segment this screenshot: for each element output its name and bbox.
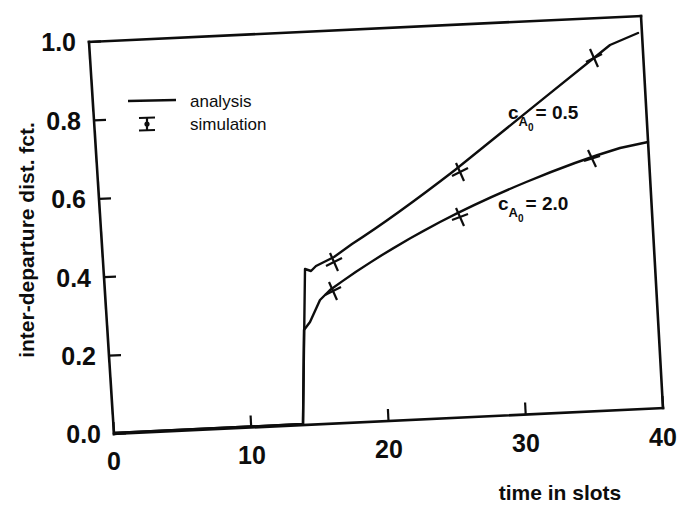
y-tick-label-1.0: 1.0 <box>41 28 76 56</box>
legend-marker-simulation <box>139 118 155 131</box>
x-tick-20 <box>388 409 389 421</box>
simulation-marker <box>586 49 602 67</box>
axis-top <box>89 16 641 42</box>
y-tick-label-0.8: 0.8 <box>46 107 81 135</box>
x-tick-30 <box>525 403 526 415</box>
x-tick-label-0: 0 <box>107 447 121 475</box>
y-tick-label-0.6: 0.6 <box>51 185 86 213</box>
axis-frame <box>89 16 663 434</box>
curve-label-c: c <box>508 102 519 123</box>
legend-label-analysis: analysis <box>190 92 251 111</box>
y-tick-label-0.2: 0.2 <box>61 342 96 370</box>
y-tick-0.8 <box>94 120 106 121</box>
simulation-markers-ca0-0-5 <box>326 49 602 271</box>
y-tick-label-0.4: 0.4 <box>56 264 91 292</box>
y-axis-ticks <box>89 41 126 434</box>
curve-label-ca0-0-5: cA0= 0.5 <box>508 102 579 133</box>
y-tick-label-0.0: 0.0 <box>66 420 101 448</box>
svg-text:cA0= 2.0: cA0= 2.0 <box>498 193 568 224</box>
x-axis-title: time in slots <box>499 481 622 504</box>
curve-label-sub-0: 0 <box>518 213 524 224</box>
y-tick-0.6 <box>99 198 111 199</box>
x-tick-label-40: 40 <box>649 423 677 451</box>
simulation-markers-ca0-2-0 <box>325 150 600 300</box>
curve-label-sub-0: 0 <box>528 122 534 133</box>
series-ca0-2-0: cA0= 2.0 <box>114 142 648 433</box>
x-tick-label-20: 20 <box>375 435 403 463</box>
x-tick-label-10: 10 <box>238 441 266 469</box>
x-tick-40 <box>662 396 663 408</box>
chart-figure: 1.0 0.8 0.6 0.4 0.2 0.0 0 10 20 30 40 in… <box>0 0 691 516</box>
curve-label-value: = 0.5 <box>536 102 579 123</box>
axis-right <box>641 16 663 408</box>
y-tick-1.0 <box>89 41 101 42</box>
y-tick-0.4 <box>104 277 116 278</box>
y-axis-title: inter-departure dist. fct. <box>15 122 38 358</box>
curve-label-value: = 2.0 <box>526 193 569 214</box>
curve-ca0-2-0 <box>114 142 648 433</box>
curve-label-ca0-2-0: cA0= 2.0 <box>498 193 568 224</box>
legend-line-analysis <box>128 100 176 101</box>
y-tick-0.2 <box>109 355 121 356</box>
legend: analysis simulation <box>128 92 267 134</box>
curve-label-c: c <box>498 193 509 214</box>
axis-left <box>89 42 114 434</box>
legend-label-simulation: simulation <box>190 115 267 134</box>
chart-svg: 1.0 0.8 0.6 0.4 0.2 0.0 0 10 20 30 40 in… <box>0 0 691 516</box>
x-tick-label-30: 30 <box>512 429 540 457</box>
svg-text:cA0= 0.5: cA0= 0.5 <box>508 102 579 133</box>
